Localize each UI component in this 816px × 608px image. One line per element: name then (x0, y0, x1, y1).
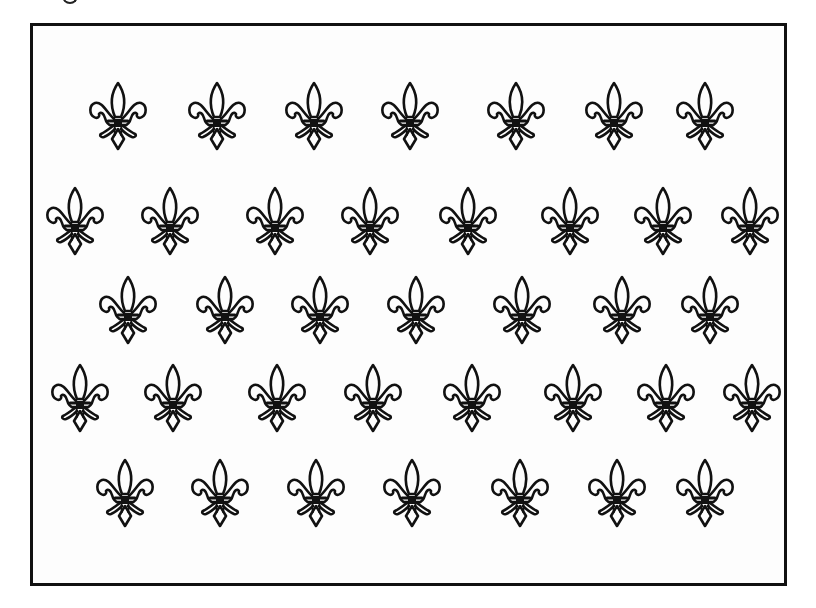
fleur-de-lis-icon (89, 81, 147, 151)
fleur-de-lis-icon (341, 186, 399, 256)
fleur-de-lis-icon (723, 363, 781, 433)
fleur-de-lis-icon (188, 81, 246, 151)
fleur-de-lis-icon (383, 458, 441, 528)
fleur-de-lis-icon (634, 186, 692, 256)
fleur-de-lis-icon (681, 275, 739, 345)
fleur-de-lis-icon (287, 458, 345, 528)
fleur-de-lis-icon (443, 363, 501, 433)
fleur-de-lis-icon (493, 275, 551, 345)
fleur-de-lis-icon (387, 275, 445, 345)
fleur-de-lis-icon (381, 81, 439, 151)
fleur-de-lis-icon (246, 186, 304, 256)
fleur-de-lis-icon (285, 81, 343, 151)
fleur-de-lis-icon (588, 458, 646, 528)
fleur-de-lis-icon (344, 363, 402, 433)
fleur-de-lis-icon (291, 275, 349, 345)
fleur-de-lis-icon (593, 275, 651, 345)
fleur-de-lis-icon (96, 458, 154, 528)
top-edge-mark (62, 0, 78, 4)
fleur-de-lis-icon (676, 81, 734, 151)
fleur-de-lis-icon (676, 458, 734, 528)
fleur-de-lis-icon (191, 458, 249, 528)
fleur-de-lis-icon (196, 275, 254, 345)
fleur-de-lis-icon (721, 186, 779, 256)
fleur-de-lis-icon (544, 363, 602, 433)
fleur-de-lis-icon (51, 363, 109, 433)
fleur-de-lis-icon (491, 458, 549, 528)
fleur-de-lis-icon (46, 186, 104, 256)
fleur-de-lis-icon (439, 186, 497, 256)
fleur-de-lis-icon (144, 363, 202, 433)
fleur-de-lis-icon (487, 81, 545, 151)
fleur-de-lis-icon (585, 81, 643, 151)
fleur-de-lis-icon (637, 363, 695, 433)
fleur-de-lis-icon (141, 186, 199, 256)
fleur-de-lis-icon (541, 186, 599, 256)
fleur-de-lis-icon (248, 363, 306, 433)
fleur-de-lis-icon (99, 275, 157, 345)
